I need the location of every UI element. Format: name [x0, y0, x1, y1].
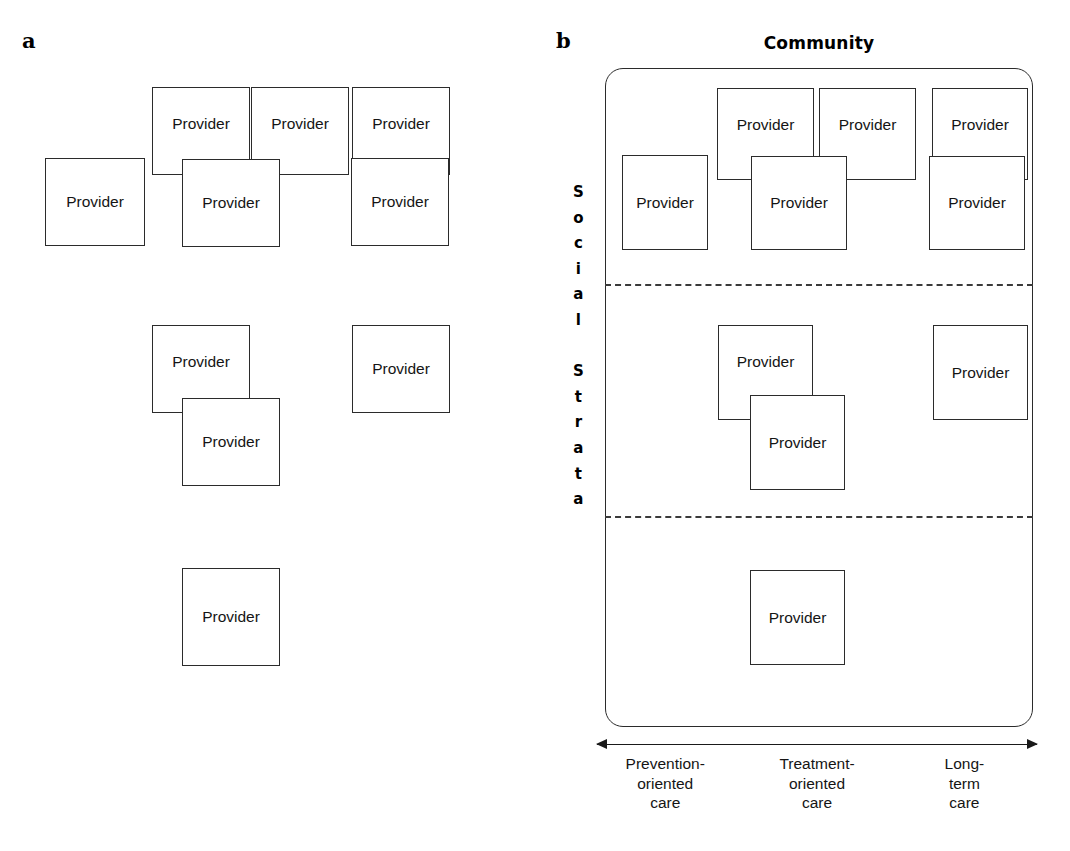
provider-box[interactable]: Provider: [751, 156, 847, 250]
provider-box-label: Provider: [769, 434, 827, 452]
provider-box[interactable]: Provider: [933, 325, 1028, 420]
axis-tick-line: oriented: [742, 774, 892, 794]
axis-line: [597, 744, 1037, 745]
social-strata-letter: a: [573, 492, 583, 518]
provider-box[interactable]: Provider: [351, 158, 449, 246]
axis-tick-line: care: [742, 793, 892, 813]
axis-tick-line: oriented: [590, 774, 740, 794]
figure-root: a ProviderProviderProviderProviderProvid…: [0, 0, 1070, 851]
axis-tick-line: care: [590, 793, 740, 813]
strata-divider: [605, 516, 1033, 518]
provider-box-label: Provider: [948, 194, 1006, 212]
provider-box[interactable]: Provider: [182, 398, 280, 486]
provider-box-label: Provider: [737, 116, 795, 134]
strata-divider: [605, 284, 1033, 286]
provider-box-label: Provider: [372, 115, 430, 133]
provider-box[interactable]: Provider: [182, 568, 280, 666]
provider-box-label: Provider: [202, 608, 260, 626]
social-strata-letter: o: [573, 211, 583, 237]
provider-box-label: Provider: [371, 193, 429, 211]
provider-box-label: Provider: [172, 353, 230, 371]
social-strata-letter: r: [575, 415, 582, 441]
provider-box-label: Provider: [839, 116, 897, 134]
provider-box[interactable]: Provider: [622, 155, 708, 250]
axis-tick-line: Long-: [889, 754, 1039, 774]
social-strata-letter: c: [574, 236, 583, 262]
provider-box-label: Provider: [172, 115, 230, 133]
axis-tick-line: term: [889, 774, 1039, 794]
social-strata-letter: i: [576, 262, 581, 288]
social-strata-letter: S: [573, 364, 584, 390]
provider-box-label: Provider: [769, 609, 827, 627]
arrow-right-icon: [1027, 739, 1038, 749]
provider-box[interactable]: Provider: [929, 156, 1025, 250]
social-strata-letter: a: [573, 441, 583, 467]
panel-b-label: b: [556, 30, 571, 51]
provider-box-label: Provider: [202, 194, 260, 212]
axis-tick-line: care: [889, 793, 1039, 813]
provider-box[interactable]: Provider: [182, 159, 280, 247]
social-strata-letter: t: [575, 390, 582, 416]
axis-tick-line: Treatment-: [742, 754, 892, 774]
social-strata-letter: l: [576, 313, 581, 339]
arrow-left-icon: [596, 739, 607, 749]
provider-box-label: Provider: [66, 193, 124, 211]
provider-box-label: Provider: [951, 116, 1009, 134]
provider-box-label: Provider: [770, 194, 828, 212]
provider-box-label: Provider: [372, 360, 430, 378]
provider-box-label: Provider: [636, 194, 694, 212]
provider-box[interactable]: Provider: [750, 395, 845, 490]
provider-box-label: Provider: [271, 115, 329, 133]
social-strata-letter: S: [573, 185, 584, 211]
social-strata-axis-label: SocialStrata: [573, 185, 584, 518]
provider-box-label: Provider: [202, 433, 260, 451]
axis-tick-line: Prevention-: [590, 754, 740, 774]
provider-box-label: Provider: [952, 364, 1010, 382]
axis-tick-label: Prevention-orientedcare: [590, 754, 740, 813]
axis-tick-label: Long-termcare: [889, 754, 1039, 813]
community-title: Community: [605, 33, 1033, 53]
axis-tick-label: Treatment-orientedcare: [742, 754, 892, 813]
social-strata-letter: a: [573, 287, 583, 313]
social-strata-letter: t: [575, 467, 582, 493]
provider-box[interactable]: Provider: [45, 158, 145, 246]
provider-box-label: Provider: [737, 353, 795, 371]
provider-box[interactable]: Provider: [750, 570, 845, 665]
provider-box[interactable]: Provider: [352, 325, 450, 413]
